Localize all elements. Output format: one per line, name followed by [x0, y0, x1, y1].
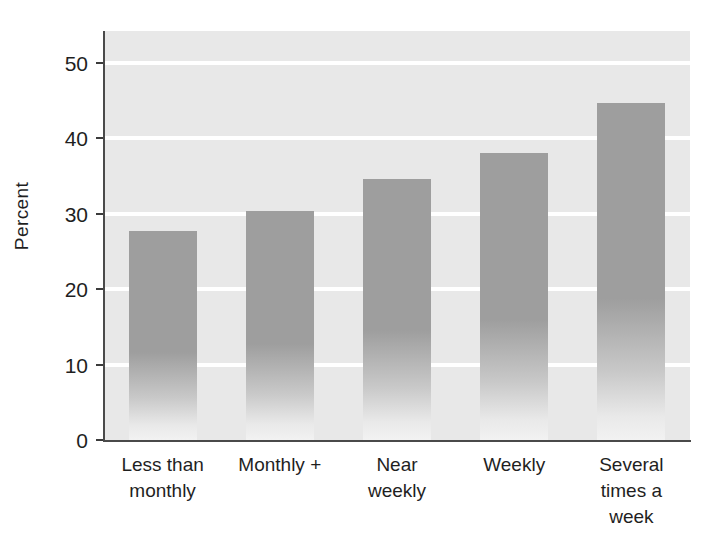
x-tick-label-line: Weekly — [456, 452, 573, 478]
x-tick-label-line: monthly — [104, 478, 221, 504]
x-tick-label-line: week — [573, 504, 690, 530]
bar — [129, 231, 197, 440]
x-tick-label-line: Several — [573, 452, 690, 478]
x-axis-spine — [103, 440, 691, 442]
x-tick-label-line: times a — [573, 478, 690, 504]
y-tick-label: 10 — [44, 354, 88, 375]
x-tick-label-line: Near — [338, 452, 455, 478]
bar — [246, 211, 314, 440]
bar — [597, 103, 665, 440]
x-tick-label-line: weekly — [338, 478, 455, 504]
plot-area — [104, 31, 690, 440]
x-tick-label: Weekly — [456, 452, 573, 478]
x-tick-label: Monthly + — [221, 452, 338, 478]
y-tick-label: 50 — [44, 52, 88, 73]
bar — [363, 179, 431, 440]
bar-chart-figure: Percent 01020304050 Less thanmonthlyMont… — [0, 0, 726, 551]
y-tick-label: 0 — [44, 430, 88, 451]
gridline — [104, 61, 690, 65]
x-tick-label: Less thanmonthly — [104, 452, 221, 504]
x-tick-label: Severaltimes aweek — [573, 452, 690, 530]
x-tick-label-line: Monthly + — [221, 452, 338, 478]
x-tick-label: Nearweekly — [338, 452, 455, 504]
y-tick-label: 40 — [44, 128, 88, 149]
y-axis-tick-labels: 01020304050 — [44, 0, 88, 551]
y-tick-label: 30 — [44, 203, 88, 224]
y-tick-label: 20 — [44, 279, 88, 300]
bar — [480, 153, 548, 441]
y-axis-title: Percent — [11, 156, 33, 276]
x-axis-tick-labels: Less thanmonthlyMonthly +NearweeklyWeekl… — [104, 452, 690, 547]
y-axis-spine — [103, 31, 105, 442]
x-tick-label-line: Less than — [104, 452, 221, 478]
